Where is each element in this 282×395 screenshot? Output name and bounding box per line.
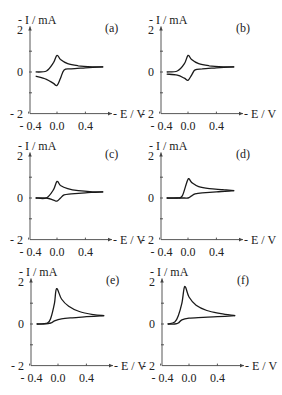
y-tick-label: 0 xyxy=(148,65,154,79)
x-tick-label: 0.0 xyxy=(182,371,197,385)
panel-label: (d) xyxy=(236,147,250,161)
x-axis-arrow-icon xyxy=(239,112,243,116)
x-tick-label: 0.4 xyxy=(79,371,94,385)
x-tick-label: 0.4 xyxy=(209,245,224,259)
panel-label: (a) xyxy=(105,21,118,35)
cv-curve-reverse xyxy=(36,192,104,201)
panel-label: (e) xyxy=(106,273,119,287)
y-tick-label: 0 xyxy=(148,191,154,205)
x-tick-label: - 0.4 xyxy=(20,245,42,259)
y-tick-label: 2 xyxy=(18,275,24,289)
y-tick-label: 2 xyxy=(148,23,154,37)
y-tick-label: 0 xyxy=(18,317,24,331)
x-tick-label: 0.0 xyxy=(51,371,66,385)
x-tick-label: - 0.4 xyxy=(151,119,173,133)
x-tick-label: - 0.4 xyxy=(20,119,42,133)
y-tick-label: 2 xyxy=(149,275,155,289)
x-tick-label: 0.4 xyxy=(78,119,93,133)
cv-curve-reverse xyxy=(167,67,235,81)
panel-f: - I / mA20- 2- E / V- 0.40.00.4(f) xyxy=(142,265,277,384)
x-axis-arrow-icon xyxy=(240,364,244,368)
panel-label: (f) xyxy=(237,273,249,287)
x-tick-label: 0.0 xyxy=(50,119,65,133)
x-axis-arrow-icon xyxy=(239,238,243,242)
y-axis-title: - I / mA xyxy=(150,265,189,279)
x-tick-label: 0.4 xyxy=(209,119,224,133)
y-axis-title: - I / mA xyxy=(18,139,57,153)
cv-curve-forward xyxy=(37,289,105,324)
x-tick-label: - 0.4 xyxy=(21,371,43,385)
cv-curve-reverse xyxy=(167,191,235,198)
y-axis-title: - I / mA xyxy=(149,139,188,153)
panel-label: (b) xyxy=(236,21,250,35)
x-tick-label: 0.0 xyxy=(181,119,196,133)
x-axis-arrow-icon xyxy=(109,364,113,368)
panel-a: - I / mA20- 2- E / V- 0.40.00.4(a) xyxy=(10,13,145,132)
y-tick-label: 2 xyxy=(17,149,23,163)
panel-c: - I / mA20- 2- E / V- 0.40.00.4(c) xyxy=(10,139,145,258)
y-axis-title: - I / mA xyxy=(19,265,58,279)
x-tick-label: 0.0 xyxy=(181,245,196,259)
y-axis-title: - I / mA xyxy=(18,13,57,27)
y-tick-label: 0 xyxy=(17,191,23,205)
panel-e: - I / mA20- 2- E / V- 0.40.00.4(e) xyxy=(11,265,146,384)
cv-curve-forward xyxy=(36,181,104,198)
y-tick-label: 0 xyxy=(17,65,23,79)
y-tick-label: 2 xyxy=(148,149,154,163)
y-axis-title: - I / mA xyxy=(149,13,188,27)
cv-curve-forward xyxy=(168,287,236,324)
x-tick-label: 0.4 xyxy=(78,245,93,259)
x-tick-label: - 0.4 xyxy=(151,245,173,259)
x-axis-arrow-icon xyxy=(108,238,112,242)
x-axis-title: - E / V xyxy=(244,107,276,121)
x-axis-title: - E / V xyxy=(244,233,276,247)
cv-curve-reverse xyxy=(36,67,104,86)
x-tick-label: 0.4 xyxy=(210,371,225,385)
cyclic-voltammogram-grid: - I / mA20- 2- E / V- 0.40.00.4(a)- I / … xyxy=(0,0,282,395)
x-axis-title: - E / V xyxy=(245,359,277,373)
cv-curve-forward xyxy=(167,179,235,199)
x-axis-arrow-icon xyxy=(108,112,112,116)
x-tick-label: - 0.4 xyxy=(152,371,174,385)
panel-d: - I / mA20- 2- E / V- 0.40.00.4(d) xyxy=(141,139,276,258)
panel-b: - I / mA20- 2- E / V- 0.40.00.4(b) xyxy=(141,13,276,132)
y-tick-label: 2 xyxy=(17,23,23,37)
panel-label: (c) xyxy=(105,147,118,161)
x-tick-label: 0.0 xyxy=(50,245,65,259)
y-tick-label: 0 xyxy=(149,317,155,331)
